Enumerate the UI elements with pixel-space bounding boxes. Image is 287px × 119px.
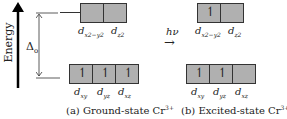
label-dx2y2: dx2−y2 (195, 25, 221, 38)
excited-t2g-box: ↿ ↿ (186, 64, 256, 84)
orbital-dyz: ↿ (93, 65, 116, 83)
energy-axis-label: Energy (2, 22, 15, 62)
label-dyz: dyz (97, 86, 110, 99)
label-dxz: dxz (235, 86, 248, 99)
caption-ground: (a) Ground-state Cr3+ (66, 104, 174, 116)
ground-t2g-box: ↿ ↿ ↿ (69, 64, 139, 84)
label-dyz: dyz (213, 86, 226, 99)
orbital-dyz: ↿ (210, 65, 233, 83)
label-dxy: dxy (74, 86, 87, 99)
label-dz2: dz2 (228, 25, 241, 38)
delta-o-label: Δo (26, 40, 38, 55)
orbital-dxz (233, 65, 255, 83)
orbital-dz2 (104, 4, 126, 22)
label-dz2: dz2 (111, 25, 124, 38)
label-dx2y2: dx2−y2 (78, 25, 104, 38)
orbital-dx2y2 (81, 4, 104, 22)
ground-eg-box (80, 3, 127, 23)
orbital-dxy: ↿ (187, 65, 210, 83)
orbital-dxz: ↿ (116, 65, 138, 83)
caption-excited: (b) Excited-state Cr3+ (181, 104, 287, 116)
delta-arrow-icon (36, 12, 61, 79)
orbital-dxy: ↿ (70, 65, 93, 83)
eg-level-line (60, 12, 80, 13)
transition-arrow-icon: → (164, 35, 175, 50)
orbital-dx2y2: ↿ (198, 4, 221, 22)
label-dxz: dxz (118, 86, 131, 99)
excited-eg-box: ↿ (197, 3, 244, 23)
orbital-dz2 (221, 4, 243, 22)
label-dxy: dxy (191, 86, 204, 99)
